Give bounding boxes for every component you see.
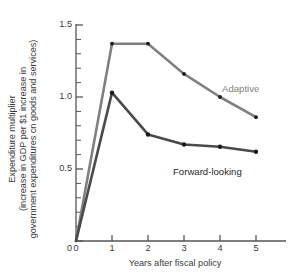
data-point — [254, 115, 258, 119]
data-point — [110, 42, 114, 46]
data-point — [254, 150, 258, 154]
chart-figure: Expenditure multiplier (increase in GDP … — [0, 0, 288, 278]
data-point — [182, 142, 186, 146]
plot-area — [0, 0, 288, 278]
series-line-adaptive — [76, 44, 256, 241]
data-point — [218, 95, 222, 99]
data-point — [146, 132, 150, 136]
data-point — [110, 90, 114, 94]
data-point — [182, 72, 186, 76]
series-markers — [110, 42, 258, 154]
data-point — [218, 144, 222, 148]
axis-lines — [76, 24, 286, 241]
series-line-forward-looking — [76, 93, 256, 241]
x-axis-ticks — [76, 235, 256, 241]
data-point — [146, 42, 150, 46]
series-lines — [76, 44, 256, 241]
